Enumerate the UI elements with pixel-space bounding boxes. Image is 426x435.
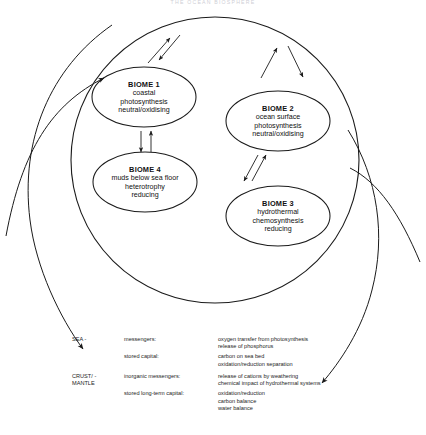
biome-3-title: BIOME 3 xyxy=(262,199,294,208)
biome-1-line: photosynthesis xyxy=(120,98,168,106)
diagram-canvas: THE OCEAN BIOSPHERE xyxy=(0,0,426,435)
biome-2-line: neutral/oxidising xyxy=(252,130,303,138)
biome-layer: BIOME 1coastalphotosynthesisneutral/oxid… xyxy=(92,67,330,246)
arc-sea-inflow xyxy=(6,78,104,236)
arc-sea-outflow xyxy=(28,25,112,349)
biome-1-title: BIOME 1 xyxy=(128,80,160,89)
biome-3-line: reducing xyxy=(264,225,291,233)
biome-2-line: photosynthesis xyxy=(254,122,302,130)
legend-item: carbon on sea bed xyxy=(218,353,264,360)
legend-category-label: messengers: xyxy=(124,336,156,343)
legend-category-label: stored capital: xyxy=(124,353,159,360)
legend-reservoir-label: CRUST/ - xyxy=(72,373,96,380)
arrow-pair-biome2-biome3 xyxy=(244,155,266,181)
legend-item: release of cations by weathering xyxy=(218,373,298,380)
legend-reservoir-label: SEA - xyxy=(72,336,86,343)
legend-item: carbon balance xyxy=(218,398,256,405)
biome-2-title: BIOME 2 xyxy=(262,104,294,113)
biome-1[interactable]: BIOME 1coastalphotosynthesisneutral/oxid… xyxy=(92,67,196,127)
system-boundary-circle xyxy=(71,17,359,303)
legend-item: oxidation/reduction separation xyxy=(218,361,293,368)
legend-item: oxygen transfer from photosynthesis xyxy=(218,336,308,343)
legend-reservoir-label-2: MANTLE xyxy=(72,380,95,387)
biome-3-line: hydrothermal xyxy=(257,208,299,216)
arrow-pair-biome1-biome4 xyxy=(141,131,151,152)
legend-item: oxidation/reduction xyxy=(218,390,265,397)
legend-item: chemical impact of hydrothermal systems xyxy=(218,380,321,387)
legend-item: water balance xyxy=(218,405,253,412)
biome-1-line: neutral/oxidising xyxy=(118,106,169,114)
biome-2[interactable]: BIOME 2ocean surfacephotosynthesisneutra… xyxy=(226,91,330,151)
arrow-pair-top-left xyxy=(148,35,180,63)
legend-category-label: inorganic messengers: xyxy=(124,373,180,380)
biome-1-line: coastal xyxy=(133,89,156,97)
legend-category-label: stored long-term capital: xyxy=(124,390,184,397)
biome-4-line: heterotrophy xyxy=(125,183,165,191)
arc-crust-inflow xyxy=(350,168,420,262)
ocean-biosphere-diagram: BIOME 1coastalphotosynthesisneutral/oxid… xyxy=(0,0,426,435)
biome-2-line: ocean surface xyxy=(256,113,301,121)
legend-item: release of phosphorus xyxy=(218,343,273,350)
biome-4-line: reducing xyxy=(131,191,158,199)
biome-3-line: chemosynthesis xyxy=(253,217,304,225)
biome-4[interactable]: BIOME 4muds below sea floorheterotrophyr… xyxy=(93,152,197,212)
biome-3[interactable]: BIOME 3hydrothermalchemosynthesisreducin… xyxy=(226,186,330,246)
biome-4-line: muds below sea floor xyxy=(111,174,179,182)
biome-4-title: BIOME 4 xyxy=(129,165,161,174)
arrow-pair-top-right xyxy=(261,46,303,78)
